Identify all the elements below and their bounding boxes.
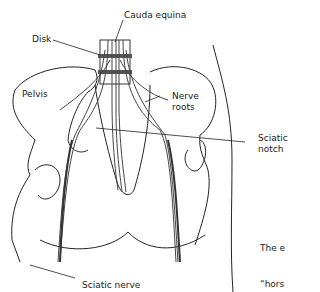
label-nerve-roots-1: Nerve	[172, 91, 199, 102]
label-pelvis: Pelvis	[22, 89, 48, 100]
label-nerve-roots-2: roots	[172, 102, 195, 113]
label-cauda-equina: Cauda equina	[124, 10, 186, 21]
label-sciatic-notch-2: notch	[258, 144, 283, 155]
body-outline	[213, 45, 233, 292]
body-text-line: The e	[260, 242, 289, 254]
label-sciatic-nerve: Sciatic nerve	[82, 280, 140, 291]
label-sciatic-notch-1: Sciatic	[258, 133, 288, 144]
label-disk: Disk	[32, 34, 51, 45]
body-text-line: “hors	[260, 278, 289, 290]
body-text: The e “hors Four c the sc form c agains …	[260, 218, 289, 292]
